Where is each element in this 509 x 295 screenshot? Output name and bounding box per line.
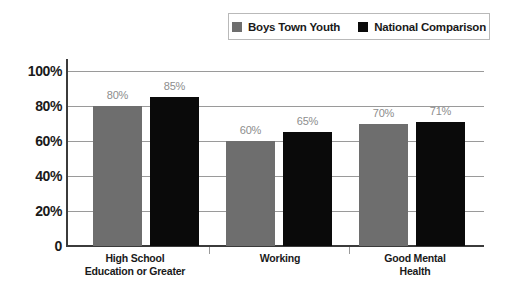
bar-mental-health-national (416, 122, 465, 246)
y-axis-labels: 100% 80% 60% 40% 20% 0 (0, 0, 62, 295)
chart-legend: Boys Town Youth National Comparison (228, 13, 490, 40)
category-label-mental-health-line1: Good Mental (340, 252, 490, 265)
category-label-mental-health: Good Mental Health (340, 252, 490, 278)
category-label-mental-health-line2: Health (340, 265, 490, 278)
bar-value-working-boys-town: 60% (226, 124, 275, 136)
category-label-high-school-line2: Education or Greater (60, 265, 210, 278)
y-tick-60: 60% (4, 133, 62, 149)
y-tick-20: 20% (4, 203, 62, 219)
bar-value-mental-health-national: 71% (416, 105, 465, 117)
bar-working-boys-town (226, 141, 275, 246)
bar-value-high-school-national: 85% (150, 80, 199, 92)
gridline-100 (68, 71, 484, 72)
bar-high-school-boys-town (93, 106, 142, 246)
category-label-high-school-line1: High School (60, 252, 210, 265)
category-label-working-line1: Working (205, 252, 355, 265)
legend-label-national-comparison: National Comparison (374, 21, 486, 33)
bar-value-high-school-boys-town: 80% (93, 89, 142, 101)
y-tick-40: 40% (4, 168, 62, 184)
legend-swatch-black (358, 22, 368, 32)
legend-item-national-comparison: National Comparison (358, 21, 486, 33)
category-label-working: Working (205, 252, 355, 265)
bar-high-school-national (150, 97, 199, 246)
bar-value-mental-health-boys-town: 70% (359, 107, 408, 119)
y-tick-0: 0 (4, 238, 62, 254)
legend-item-boys-town-youth: Boys Town Youth (232, 21, 340, 33)
y-tick-100: 100% (4, 63, 62, 79)
bar-value-working-national: 65% (283, 115, 332, 127)
bar-chart: Boys Town Youth National Comparison 100%… (0, 0, 509, 295)
bar-working-national (283, 132, 332, 246)
plot-area: 80% 85% 60% 65% 70% 71% (68, 71, 484, 246)
y-tick-80: 80% (4, 98, 62, 114)
category-label-high-school: High School Education or Greater (60, 252, 210, 278)
legend-swatch-gray (232, 22, 242, 32)
bar-mental-health-boys-town (359, 124, 408, 247)
legend-label-boys-town-youth: Boys Town Youth (248, 21, 340, 33)
